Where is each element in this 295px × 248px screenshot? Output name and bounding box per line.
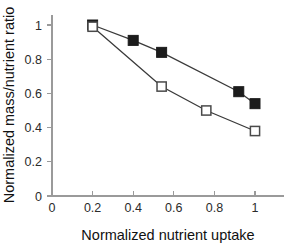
data-series-layer bbox=[88, 20, 260, 136]
x-axis-tick-labels: 00.20.40.60.81 bbox=[49, 201, 259, 215]
y-tick-label: 0.6 bbox=[25, 87, 42, 101]
y-tick-label: 0.8 bbox=[25, 53, 42, 67]
x-axis-ticks bbox=[52, 191, 255, 196]
y-axis-title: Normalized mass/nutrient ratio bbox=[1, 7, 17, 204]
y-tick-label: 1 bbox=[35, 19, 42, 33]
series-filled-squares bbox=[88, 20, 260, 109]
y-tick-label: 0.4 bbox=[25, 121, 42, 135]
series-line bbox=[93, 25, 255, 104]
data-point-marker bbox=[157, 82, 166, 91]
x-tick-label: 1 bbox=[252, 201, 259, 215]
data-point-marker bbox=[250, 99, 260, 109]
data-point-marker bbox=[202, 106, 211, 115]
y-axis-ticks bbox=[47, 25, 52, 196]
series-open-squares bbox=[88, 22, 260, 136]
y-tick-label: 0.2 bbox=[25, 155, 42, 169]
x-tick-label: 0.8 bbox=[206, 201, 223, 215]
x-tick-label: 0.4 bbox=[125, 201, 142, 215]
x-tick-label: 0.6 bbox=[165, 201, 182, 215]
y-tick-label: 0 bbox=[35, 190, 42, 204]
data-point-marker bbox=[88, 22, 97, 31]
series-line bbox=[93, 27, 255, 131]
data-point-marker bbox=[234, 87, 244, 97]
data-point-marker bbox=[128, 35, 138, 45]
line-chart-plot: 00.20.40.60.81 00.20.40.60.81 Normalized… bbox=[0, 0, 295, 248]
y-axis-tick-labels: 00.20.40.60.81 bbox=[25, 19, 42, 204]
chart-figure: 00.20.40.60.81 00.20.40.60.81 Normalized… bbox=[0, 0, 295, 248]
x-tick-label: 0 bbox=[49, 201, 56, 215]
data-point-marker bbox=[157, 47, 167, 57]
x-axis-title: Normalized nutrient uptake bbox=[81, 227, 254, 243]
x-tick-label: 0.2 bbox=[84, 201, 101, 215]
data-point-marker bbox=[250, 126, 259, 135]
